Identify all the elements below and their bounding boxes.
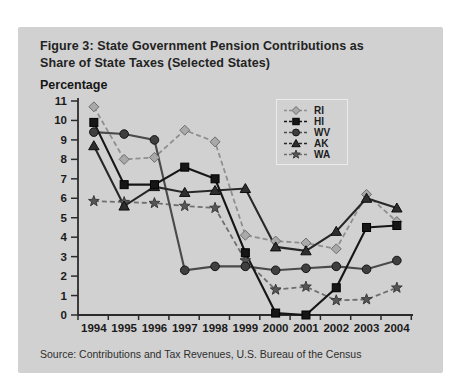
legend-item-WA: WA	[284, 149, 340, 160]
star-marker	[210, 202, 221, 212]
legend-sample-WA	[284, 149, 308, 160]
square-marker	[120, 181, 128, 189]
legend-item-WV: WV	[284, 127, 340, 138]
legend-label-WV: WV	[314, 127, 330, 138]
legend-sample-RI	[284, 105, 308, 116]
figure-title-line2: Share of State Taxes (Selected States)	[40, 55, 364, 72]
square-marker	[363, 223, 371, 231]
circle-marker	[302, 264, 311, 273]
legend-item-AK: AK	[284, 138, 340, 149]
circle-marker	[150, 136, 159, 145]
diamond-marker	[180, 125, 190, 135]
figure-title: Figure 3: State Government Pension Contr…	[40, 38, 364, 72]
circle-marker	[362, 265, 371, 274]
star-marker	[89, 196, 100, 206]
star-marker	[392, 282, 403, 292]
legend-label-AK: AK	[314, 138, 328, 149]
legend-item-RI: RI	[284, 105, 340, 116]
square-marker	[150, 181, 158, 189]
square-marker	[293, 118, 299, 124]
circle-marker	[271, 266, 280, 275]
circle-marker	[211, 262, 220, 271]
chart-area: 0123456789101119941995199619971998199920…	[20, 93, 440, 343]
source-note: Source: Contributions and Tax Revenues, …	[40, 348, 361, 360]
triangle-marker	[89, 141, 99, 150]
circle-marker	[293, 129, 300, 136]
y-tick-label: 6	[61, 192, 67, 204]
legend-sample-WV	[284, 127, 308, 138]
y-axis-title: Percentage	[40, 78, 107, 92]
circle-marker	[393, 256, 402, 265]
star-marker	[361, 294, 372, 304]
circle-marker	[241, 262, 250, 271]
star-marker	[331, 295, 342, 305]
x-tick-label: 1994	[81, 322, 107, 334]
legend-label-WA: WA	[314, 149, 330, 160]
circle-marker	[90, 128, 99, 137]
square-marker	[393, 222, 401, 230]
x-tick-label: 2003	[354, 322, 380, 334]
series-line-RI	[94, 107, 397, 249]
line-chart: 0123456789101119941995199619971998199920…	[20, 93, 440, 343]
star-marker	[301, 281, 312, 291]
x-tick-label: 2002	[323, 322, 349, 334]
series-line-HI	[94, 122, 397, 315]
y-tick-label: 4	[61, 231, 68, 243]
square-marker	[90, 118, 98, 126]
y-tick-label: 8	[61, 153, 68, 165]
x-tick-label: 1995	[111, 322, 137, 334]
star-marker	[179, 200, 190, 210]
y-tick-label: 5	[61, 212, 68, 224]
figure-title-line1: Figure 3: State Government Pension Contr…	[40, 38, 364, 55]
diamond-marker	[119, 154, 129, 164]
legend-label-RI: RI	[314, 105, 324, 116]
diamond-marker	[240, 230, 250, 240]
y-tick-label: 11	[55, 95, 68, 107]
legend-sample-HI	[284, 116, 308, 127]
square-marker	[241, 249, 249, 257]
diamond-marker	[89, 102, 99, 112]
y-tick-label: 2	[61, 270, 67, 282]
y-tick-label: 10	[54, 114, 67, 126]
square-marker	[302, 311, 310, 319]
figure-panel: Figure 3: State Government Pension Contr…	[18, 27, 443, 373]
circle-marker	[332, 262, 341, 271]
diamond-marker	[210, 137, 220, 147]
square-marker	[272, 309, 280, 317]
legend-sample-AK	[284, 138, 308, 149]
triangle-marker	[292, 140, 300, 147]
diamond-marker	[292, 107, 300, 115]
circle-marker	[180, 266, 189, 275]
legend-item-HI: HI	[284, 116, 340, 127]
x-tick-label: 2001	[293, 322, 319, 334]
legend-label-HI: HI	[314, 116, 324, 127]
y-tick-label: 9	[61, 134, 67, 146]
square-marker	[181, 163, 189, 171]
x-tick-label: 1997	[172, 322, 198, 334]
x-tick-label: 1996	[142, 322, 168, 334]
x-tick-label: 2004	[384, 322, 410, 334]
y-tick-label: 1	[61, 290, 68, 302]
y-tick-label: 7	[61, 173, 67, 185]
x-tick-label: 1999	[233, 322, 259, 334]
square-marker	[211, 175, 219, 183]
diamond-marker	[331, 244, 341, 254]
x-tick-label: 2000	[263, 322, 289, 334]
y-tick-label: 3	[61, 251, 67, 263]
figure-page: Figure 3: State Government Pension Contr…	[0, 0, 457, 387]
star-marker	[149, 198, 160, 208]
star-marker	[292, 150, 301, 158]
chart-legend: RIHIWVAKWA	[276, 99, 348, 165]
x-tick-label: 1998	[202, 322, 228, 334]
y-tick-label: 0	[61, 309, 67, 321]
circle-marker	[120, 130, 129, 139]
square-marker	[332, 284, 340, 292]
